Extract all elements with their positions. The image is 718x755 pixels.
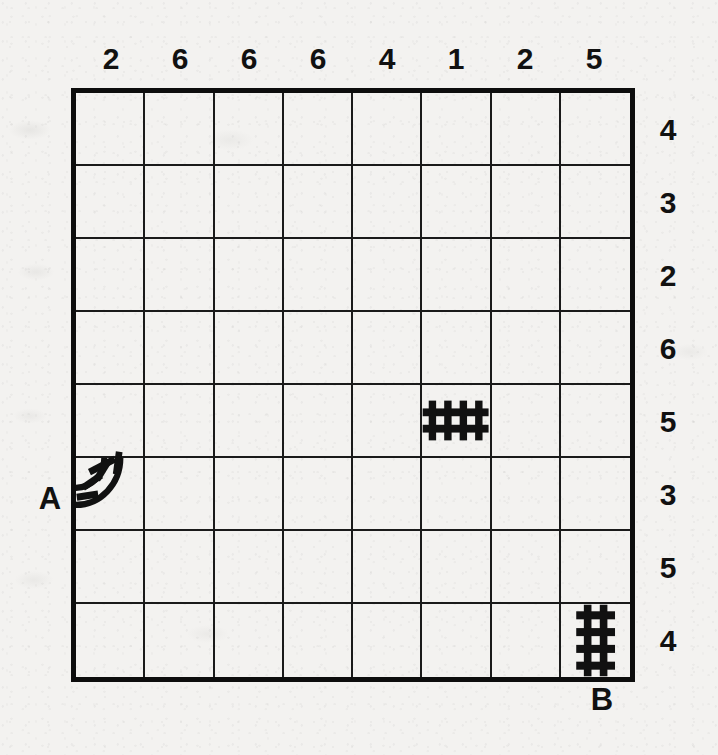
grid-cell-r2c5[interactable] xyxy=(353,166,422,239)
grid-cell-r6c4[interactable] xyxy=(284,458,353,531)
grid-cell-r3c1[interactable] xyxy=(76,239,145,312)
grid-cell-r6c6[interactable] xyxy=(422,458,491,531)
column-clue-2: 6 xyxy=(145,44,215,74)
grid-cell-r2c7[interactable] xyxy=(492,166,561,239)
railroad-track-puzzle: 2 6 6 6 4 1 2 5 4 3 2 6 5 3 5 4 xyxy=(0,0,718,755)
row-clue-8: 4 xyxy=(650,626,686,656)
grid-cell-r4c1[interactable] xyxy=(76,312,145,385)
grid-cell-r7c7[interactable] xyxy=(492,531,561,604)
grid-cell-r6c1[interactable] xyxy=(76,458,145,531)
puzzle-grid xyxy=(76,93,630,677)
grid-cell-r8c8[interactable] xyxy=(561,604,630,677)
grid-cell-r5c7[interactable] xyxy=(492,385,561,458)
column-clue-1: 2 xyxy=(76,44,146,74)
grid-cell-r8c1[interactable] xyxy=(76,604,145,677)
grid-cell-r7c8[interactable] xyxy=(561,531,630,604)
grid-cell-r4c7[interactable] xyxy=(492,312,561,385)
grid-cell-r4c3[interactable] xyxy=(215,312,284,385)
grid-cell-r7c3[interactable] xyxy=(215,531,284,604)
column-clue-7: 2 xyxy=(490,44,560,74)
row-clue-2: 3 xyxy=(650,188,686,218)
grid-cell-r3c5[interactable] xyxy=(353,239,422,312)
grid-cell-r7c1[interactable] xyxy=(76,531,145,604)
grid-cell-r2c6[interactable] xyxy=(422,166,491,239)
grid-cell-r6c7[interactable] xyxy=(492,458,561,531)
row-clue-3: 2 xyxy=(650,261,686,291)
grid-cell-r2c3[interactable] xyxy=(215,166,284,239)
grid-cell-r4c5[interactable] xyxy=(353,312,422,385)
grid-cell-r3c6[interactable] xyxy=(422,239,491,312)
row-clue-4: 6 xyxy=(650,334,686,364)
track-straight-vertical-icon xyxy=(561,604,630,677)
grid-cell-r5c5[interactable] xyxy=(353,385,422,458)
column-clue-3: 6 xyxy=(214,44,284,74)
grid-cell-r5c3[interactable] xyxy=(215,385,284,458)
column-clue-6: 1 xyxy=(421,44,491,74)
grid-cell-r4c6[interactable] xyxy=(422,312,491,385)
grid-cell-r5c2[interactable] xyxy=(145,385,214,458)
grid-cell-r2c4[interactable] xyxy=(284,166,353,239)
row-clue-7: 5 xyxy=(650,553,686,583)
grid-cell-r3c7[interactable] xyxy=(492,239,561,312)
grid-cell-r2c2[interactable] xyxy=(145,166,214,239)
grid-cell-r1c6[interactable] xyxy=(422,93,491,166)
grid-cell-r6c3[interactable] xyxy=(215,458,284,531)
grid-cell-r6c5[interactable] xyxy=(353,458,422,531)
track-curve-top-left-icon xyxy=(76,458,143,529)
grid-cell-r8c6[interactable] xyxy=(422,604,491,677)
grid-cell-r8c4[interactable] xyxy=(284,604,353,677)
grid-cell-r1c8[interactable] xyxy=(561,93,630,166)
grid-cell-r3c2[interactable] xyxy=(145,239,214,312)
grid-cell-r7c6[interactable] xyxy=(422,531,491,604)
grid-cell-r7c5[interactable] xyxy=(353,531,422,604)
grid-cell-r3c4[interactable] xyxy=(284,239,353,312)
grid-cell-r8c3[interactable] xyxy=(215,604,284,677)
column-clue-4: 6 xyxy=(283,44,353,74)
grid-cell-r8c5[interactable] xyxy=(353,604,422,677)
grid-cell-r4c2[interactable] xyxy=(145,312,214,385)
column-clue-5: 4 xyxy=(352,44,422,74)
track-straight-horizontal-icon xyxy=(422,385,489,456)
grid-cell-r8c7[interactable] xyxy=(492,604,561,677)
column-clue-8: 5 xyxy=(559,44,629,74)
grid-cell-r5c6[interactable] xyxy=(422,385,491,458)
grid-cell-r7c2[interactable] xyxy=(145,531,214,604)
endpoint-label-a: A xyxy=(32,483,68,514)
grid-cell-r7c4[interactable] xyxy=(284,531,353,604)
grid-cell-r1c3[interactable] xyxy=(215,93,284,166)
grid-cell-r1c4[interactable] xyxy=(284,93,353,166)
grid-cell-r5c8[interactable] xyxy=(561,385,630,458)
row-clue-1: 4 xyxy=(650,115,686,145)
grid-cell-r2c8[interactable] xyxy=(561,166,630,239)
grid-cell-r4c4[interactable] xyxy=(284,312,353,385)
row-clue-6: 3 xyxy=(650,480,686,510)
endpoint-label-b: B xyxy=(584,684,620,715)
grid-cell-r6c8[interactable] xyxy=(561,458,630,531)
grid-cell-r2c1[interactable] xyxy=(76,166,145,239)
grid-cell-r4c8[interactable] xyxy=(561,312,630,385)
grid-cell-r3c8[interactable] xyxy=(561,239,630,312)
grid-cell-r3c3[interactable] xyxy=(215,239,284,312)
grid-cell-r1c5[interactable] xyxy=(353,93,422,166)
grid-cell-r8c2[interactable] xyxy=(145,604,214,677)
grid-cell-r1c7[interactable] xyxy=(492,93,561,166)
grid-cell-r5c4[interactable] xyxy=(284,385,353,458)
row-clue-5: 5 xyxy=(650,407,686,437)
grid-cell-r1c2[interactable] xyxy=(145,93,214,166)
grid-cell-r6c2[interactable] xyxy=(145,458,214,531)
grid-cell-r5c1[interactable] xyxy=(76,385,145,458)
grid-cell-r1c1[interactable] xyxy=(76,93,145,166)
